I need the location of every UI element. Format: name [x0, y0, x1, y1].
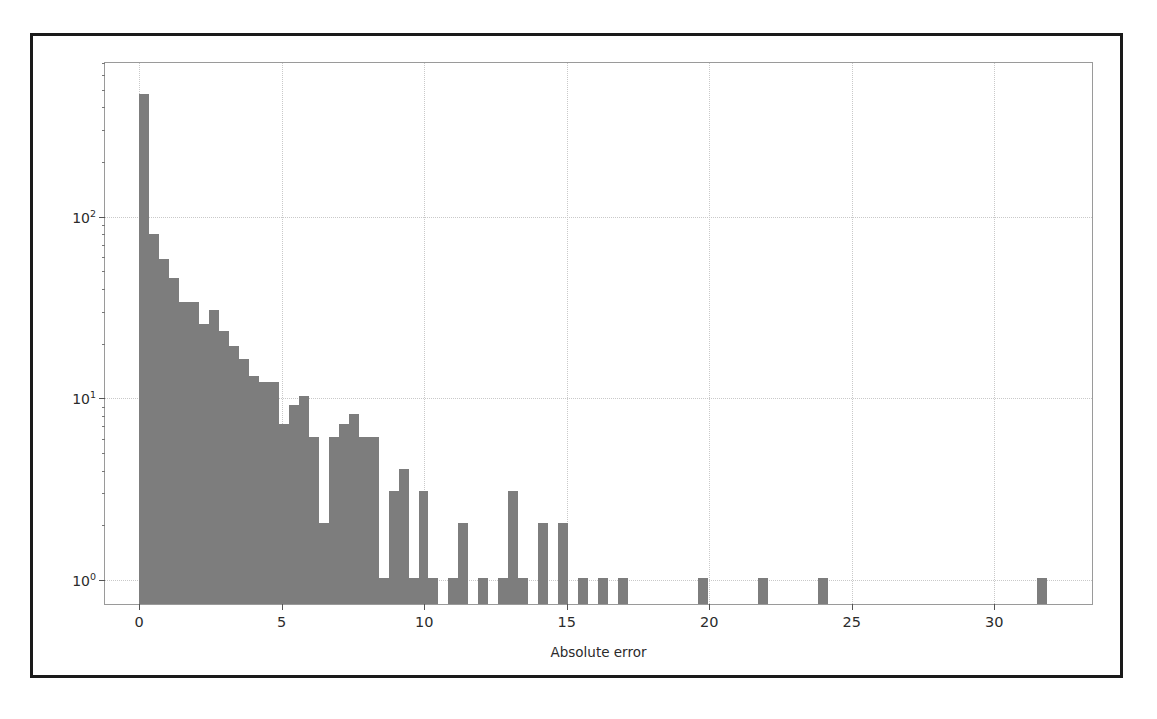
y-tick-minor	[102, 63, 106, 64]
x-tick-label: 5	[277, 614, 286, 630]
figure-canvas: 100101102 051015202530 Absolute error Sa…	[0, 0, 1157, 719]
y-tick-label: 102	[72, 208, 96, 226]
histogram-bar	[319, 523, 329, 604]
y-tick-minor	[102, 289, 106, 290]
y-tick-major	[99, 398, 105, 399]
histogram-bar	[618, 578, 628, 604]
histogram-bar	[399, 469, 409, 604]
histogram-bar	[598, 578, 608, 604]
histogram-bar	[179, 302, 189, 604]
x-tick-label: 10	[415, 614, 433, 630]
histogram-bar	[458, 523, 468, 604]
y-tick-minor	[102, 245, 106, 246]
histogram-bar	[229, 346, 239, 604]
y-tick-minor	[102, 426, 106, 427]
y-tick-minor	[102, 439, 106, 440]
x-tick-major	[709, 604, 710, 610]
y-tick-minor	[102, 257, 106, 258]
y-tick-minor	[102, 407, 106, 408]
histogram-bar	[169, 278, 179, 604]
y-tick-minor	[102, 453, 106, 454]
histogram-bar	[578, 578, 588, 604]
histogram-bar	[1037, 578, 1047, 604]
histogram-bar	[419, 491, 429, 604]
histogram-bar	[369, 437, 379, 604]
x-tick-label: 25	[843, 614, 861, 630]
histogram-bar	[199, 324, 209, 604]
histogram-bar	[249, 376, 259, 604]
histogram-bar	[818, 578, 828, 604]
y-tick-minor	[102, 130, 106, 131]
plot-area: 100101102 051015202530	[104, 62, 1093, 605]
histogram-bar	[219, 331, 229, 604]
y-tick-minor	[102, 75, 106, 76]
x-tick-major	[424, 604, 425, 610]
histogram-bar	[389, 491, 399, 604]
histogram-bar	[518, 578, 528, 604]
histogram-bar	[269, 382, 279, 604]
histogram-bar	[359, 437, 369, 604]
histogram-bar	[159, 259, 169, 604]
y-tick-minor	[102, 234, 106, 235]
x-tick-major	[852, 604, 853, 610]
histogram-bar	[428, 578, 438, 604]
y-tick-minor	[102, 225, 106, 226]
histogram-bar	[558, 523, 568, 604]
y-tick-minor	[102, 107, 106, 108]
histogram-bar	[339, 424, 349, 604]
x-tick-major	[139, 604, 140, 610]
histogram-bar	[448, 578, 458, 604]
y-tick-minor	[102, 493, 106, 494]
y-tick-major	[99, 580, 105, 581]
y-tick-minor	[102, 271, 106, 272]
y-tick-major	[99, 217, 105, 218]
x-tick-label: 20	[700, 614, 718, 630]
histogram-bars	[105, 63, 1092, 604]
histogram-bar	[279, 424, 289, 604]
histogram-bar	[498, 578, 508, 604]
histogram-bar	[139, 94, 149, 604]
histogram-bar	[698, 578, 708, 604]
histogram-bar	[758, 578, 768, 604]
histogram-bar	[289, 405, 299, 604]
histogram-bar	[189, 302, 199, 604]
x-tick-label: 30	[985, 614, 1003, 630]
y-tick-minor	[102, 525, 106, 526]
y-tick-minor	[102, 416, 106, 417]
histogram-bar	[538, 523, 548, 604]
x-tick-label: 0	[135, 614, 144, 630]
histogram-bar	[299, 396, 309, 604]
histogram-bar	[409, 578, 419, 604]
x-tick-major	[994, 604, 995, 610]
x-axis-label: Absolute error	[104, 644, 1093, 660]
histogram-bar	[329, 437, 339, 604]
x-tick-label: 15	[557, 614, 575, 630]
y-tick-minor	[102, 471, 106, 472]
y-tick-minor	[102, 162, 106, 163]
x-tick-major	[567, 604, 568, 610]
histogram-bar	[209, 310, 219, 604]
histogram-bar	[259, 382, 269, 604]
histogram-bar	[508, 491, 518, 604]
histogram-bar	[309, 437, 319, 604]
histogram-bar	[379, 578, 389, 604]
x-tick-major	[282, 604, 283, 610]
histogram-bar	[349, 414, 359, 604]
y-tick-minor	[102, 90, 106, 91]
y-tick-label: 100	[72, 571, 96, 589]
histogram-bar	[149, 234, 159, 604]
y-tick-minor	[102, 312, 106, 313]
y-tick-label: 101	[72, 390, 96, 408]
histogram-bar	[478, 578, 488, 604]
histogram-bar	[239, 359, 249, 604]
y-tick-minor	[102, 344, 106, 345]
